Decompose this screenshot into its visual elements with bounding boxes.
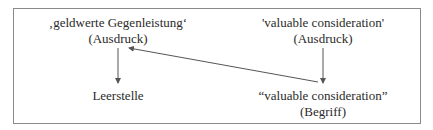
diagonal-arrow-icon — [129, 48, 318, 82]
arrows-layer — [0, 0, 433, 130]
